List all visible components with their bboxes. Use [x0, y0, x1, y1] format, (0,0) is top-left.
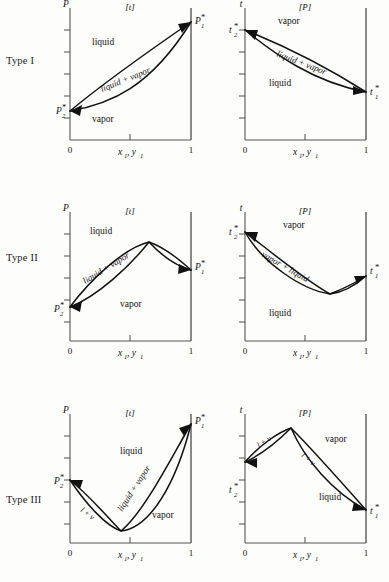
- point-label-right: P 1 *: [194, 412, 205, 429]
- x-axis-max-label: 1: [364, 145, 369, 155]
- region-label-liquid: liquid: [269, 308, 291, 318]
- x-axis-min-label: 0: [68, 548, 73, 558]
- svg-text:2: 2: [234, 491, 238, 498]
- y-axis-ticks: [64, 436, 70, 524]
- phase-diagram-figure: Type I: [0, 0, 389, 582]
- region-label-vapor: vapor: [283, 220, 305, 230]
- region-label-two-phase: liquid + vapor: [115, 463, 152, 513]
- x-axis-label: x 1 , y 1: [117, 348, 143, 360]
- svg-text:*: *: [60, 300, 64, 310]
- svg-text:2: 2: [60, 310, 64, 317]
- point-label-right: t 1 *: [370, 502, 379, 519]
- point-label-left: P 2 *: [53, 472, 64, 489]
- svg-text:P: P: [53, 304, 60, 314]
- point-label-right: t 1 *: [370, 262, 379, 279]
- bubble-curve: [70, 22, 191, 111]
- svg-text:1: 1: [140, 353, 143, 360]
- svg-text:*: *: [62, 102, 66, 112]
- svg-text:*: *: [375, 262, 379, 272]
- panel-type3-txy: t [P] vapor liquid l + v l + v t 2 * t 1…: [233, 388, 389, 582]
- point-label-right: P 1 *: [194, 258, 205, 275]
- diagram-row-type-2: Type II P [t]: [0, 194, 389, 388]
- svg-text:, y: , y: [302, 550, 312, 560]
- x-axis-label: x 1 , y 1: [117, 147, 143, 159]
- svg-text:x: x: [117, 147, 123, 157]
- constant-property-bracket: [P]: [299, 408, 312, 418]
- x-axis-label: x 1 , y 1: [292, 348, 318, 360]
- svg-text:P: P: [55, 106, 62, 116]
- dew-curve: [245, 232, 366, 294]
- panel-type2-pxy: P [t] liquid vapor liquid + vapor P 2 * …: [58, 194, 233, 388]
- region-label-two-phase-left: l + v: [255, 434, 273, 450]
- svg-text:1: 1: [201, 22, 204, 29]
- svg-text:*: *: [375, 502, 379, 512]
- region-label-liquid: liquid: [269, 78, 291, 88]
- svg-text:*: *: [201, 12, 205, 22]
- svg-text:1: 1: [315, 353, 318, 360]
- svg-text:2: 2: [234, 233, 238, 240]
- svg-text:, y: , y: [302, 348, 312, 358]
- svg-text:*: *: [234, 481, 238, 491]
- svg-text:1: 1: [315, 152, 318, 159]
- svg-text:t: t: [229, 25, 232, 35]
- y-axis-ticks: [239, 234, 245, 322]
- x-axis-min-label: 0: [243, 346, 248, 356]
- left-vertex-marker: [70, 480, 83, 489]
- svg-text:*: *: [234, 21, 238, 31]
- y-axis-name: t: [240, 0, 243, 9]
- svg-text:*: *: [375, 83, 379, 93]
- svg-text:x: x: [292, 147, 298, 157]
- svg-text:x: x: [292, 550, 298, 560]
- x-axis-min-label: 0: [68, 145, 73, 155]
- svg-text:*: *: [201, 258, 205, 268]
- region-label-two-phase: liquid + vapor: [81, 250, 132, 286]
- panel-type1-pxy: P [t] liquid vapor liquid + vapor P 2 * …: [58, 0, 233, 194]
- region-label-vapor: vapor: [278, 16, 300, 26]
- region-label-vapor: vapor: [92, 114, 114, 124]
- x-axis-max-label: 1: [189, 145, 194, 155]
- svg-text:t: t: [229, 227, 232, 237]
- svg-text:2: 2: [234, 31, 238, 38]
- constant-property-bracket: [t]: [125, 206, 135, 216]
- region-label-two-phase: liquid + vapor: [275, 49, 328, 77]
- svg-text:t: t: [370, 506, 373, 516]
- svg-text:, y: , y: [127, 348, 137, 358]
- y-axis-name: t: [240, 405, 243, 415]
- y-axis-ticks: [239, 30, 245, 118]
- region-label-two-phase: vapor + liquid: [260, 249, 311, 284]
- svg-text:, y: , y: [302, 147, 312, 157]
- y-axis-name: P: [62, 405, 69, 415]
- svg-text:P: P: [194, 416, 201, 426]
- row-label-type-3: Type III: [6, 494, 64, 505]
- svg-text:1: 1: [140, 152, 143, 159]
- x-axis-label: x 1 , y 1: [292, 550, 318, 562]
- region-label-liquid: liquid: [319, 492, 341, 502]
- panel-type1-txy: t [P] vapor liquid liquid + vapor t 2 * …: [233, 0, 389, 194]
- svg-text:2: 2: [60, 482, 64, 489]
- y-axis-name: P: [62, 203, 69, 213]
- diagram-row-type-3: Type III P [t]: [0, 388, 389, 582]
- svg-text:1: 1: [201, 422, 204, 429]
- y-axis-name: P: [62, 0, 69, 9]
- x-axis-min-label: 0: [243, 145, 248, 155]
- svg-text:1: 1: [201, 268, 204, 275]
- row-label-type-2: Type II: [6, 252, 64, 263]
- region-label-vapor: vapor: [325, 434, 347, 444]
- bubble-curve: [245, 232, 366, 294]
- x-axis-label: x 1 , y 1: [292, 147, 318, 159]
- point-label-left: P 2 *: [53, 300, 64, 317]
- y-axis-ticks: [239, 436, 245, 524]
- row-label-type-1: Type I: [6, 55, 64, 66]
- svg-text:, y: , y: [127, 550, 137, 560]
- constant-property-bracket: [t]: [125, 408, 135, 418]
- x-axis-max-label: 1: [364, 548, 369, 558]
- svg-text:x: x: [117, 348, 123, 358]
- region-label-liquid: liquid: [92, 37, 114, 47]
- region-label-vapor: vapor: [152, 510, 174, 520]
- y-axis-name: t: [240, 203, 243, 213]
- svg-text:t: t: [370, 87, 373, 97]
- left-vertex-marker: [70, 301, 82, 312]
- svg-text:P: P: [53, 476, 60, 486]
- region-label-liquid: liquid: [90, 226, 112, 236]
- point-label-right: t 1 *: [370, 83, 379, 100]
